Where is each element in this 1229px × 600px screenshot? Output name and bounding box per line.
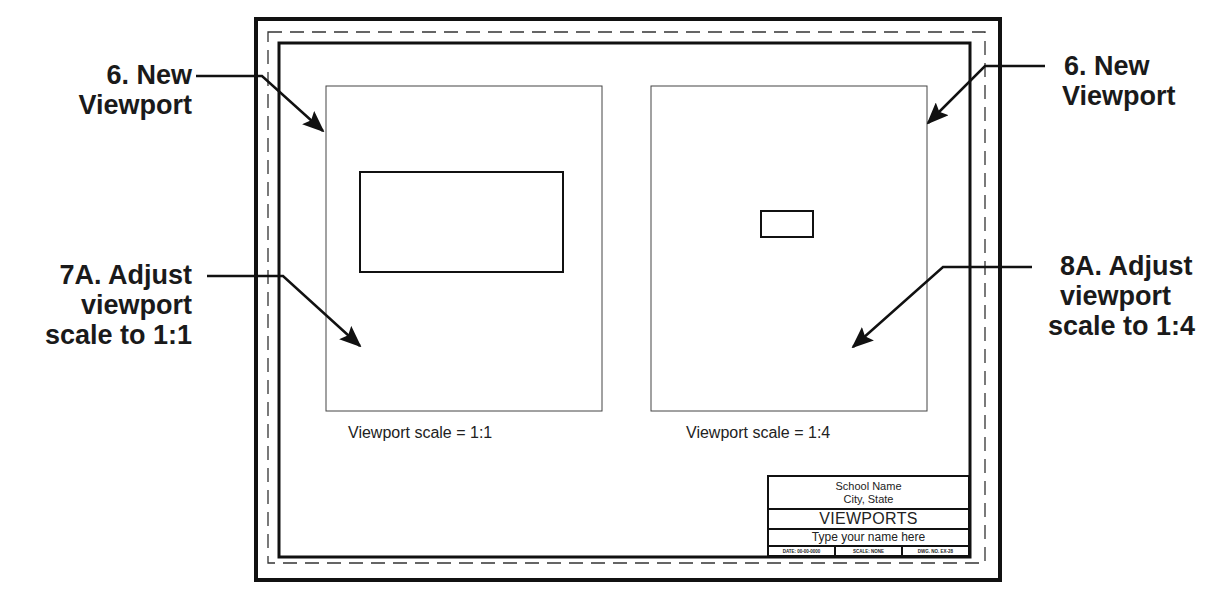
leader-arrow-mid-left: [207, 276, 360, 346]
viewport-right[interactable]: [651, 86, 927, 411]
leader-arrow-top-left: [196, 76, 323, 131]
viewport-right-caption: Viewport scale = 1:4: [686, 424, 830, 442]
school-location: City, State: [769, 493, 968, 506]
callout-new-viewport-left: 6. New Viewport: [20, 60, 192, 120]
callout-line: scale to 1:1: [0, 320, 192, 350]
viewport-left[interactable]: [326, 86, 602, 411]
callout-line: viewport: [0, 290, 192, 320]
callout-adjust-scale-1-4: 8A. Adjust viewport scale to 1:4: [1048, 251, 1229, 341]
drawing-scale: SCALE: NONE: [836, 547, 903, 557]
drawing-title: VIEWPORTS: [769, 510, 968, 530]
viewport-left-content-rect: [360, 172, 563, 272]
title-block-school: School Name City, State: [769, 477, 968, 510]
student-name-field[interactable]: Type your name here: [769, 530, 968, 547]
school-name: School Name: [769, 480, 968, 493]
callout-line: scale to 1:4: [1048, 311, 1229, 341]
callout-line: 6. New: [20, 60, 192, 90]
callout-line: viewport: [1048, 281, 1229, 311]
callout-line: Viewport: [1062, 81, 1229, 111]
drawing-date: DATE: 00-00-0000: [769, 547, 836, 557]
callout-line: 7A. Adjust: [0, 260, 192, 290]
title-block-meta: DATE: 00-00-0000 SCALE: NONE DWG. NO. EX…: [769, 547, 968, 557]
callout-line: 6. New: [1062, 51, 1229, 81]
leader-arrow-mid-right: [853, 267, 1032, 347]
callout-adjust-scale-1-1: 7A. Adjust viewport scale to 1:1: [0, 260, 192, 350]
callout-line: Viewport: [20, 90, 192, 120]
callout-line: 8A. Adjust: [1048, 251, 1229, 281]
leader-arrow-top-right: [928, 66, 1045, 123]
callout-new-viewport-right: 6. New Viewport: [1062, 51, 1229, 111]
drawing-number: DWG. NO. EX-28: [903, 547, 968, 557]
viewport-left-caption: Viewport scale = 1:1: [348, 424, 492, 442]
viewport-right-content-rect: [761, 211, 813, 237]
title-block: School Name City, State VIEWPORTS Type y…: [767, 475, 970, 557]
